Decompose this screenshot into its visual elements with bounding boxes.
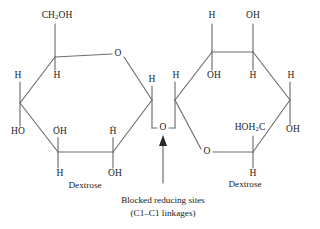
left-label-ring-oxygen: O [114,49,122,59]
left-ring-substituent-bonds [20,24,152,168]
right-bond-c2-c1 [253,52,290,100]
left-ring-name-dextrose: Dextrose [68,180,101,190]
caption-line-2: (C1–C1 linkages) [130,209,195,218]
right-label-h-c2: H [249,71,257,81]
left-label-ch2oh: CH2OH [41,11,73,21]
arrow-head [159,135,167,146]
right-ring-skeleton [175,52,290,152]
left-label-oh-c3: OH [52,127,67,137]
left-bond-c5-o [55,54,112,57]
right-ring-name-dextrose: Dextrose [228,179,261,189]
left-label-h-c4: H [14,71,22,81]
right-label-oh-c3: OH [206,71,221,81]
right-ring-substituent-bonds [175,24,290,168]
right-label-hoh2c: HOH2C [234,123,266,133]
caption-pointer-arrow [159,135,167,183]
chemical-structure-diagram: CH2OH O H H HO OH H H OH H O H OH OH H H… [0,0,320,229]
left-label-h-c1: H [148,75,156,85]
left-ring-skeleton [20,54,152,152]
left-bond-c1-c2 [113,100,152,152]
left-label-ho-c4: HO [10,127,25,137]
right-label-ring-oxygen: O [203,147,211,157]
left-label-h-c2: H [109,127,117,137]
right-label-oh-c1: OH [285,125,300,135]
left-label-h-c5: H [53,71,61,81]
glycosidic-oxygen-label: O [159,123,167,133]
left-label-oh-c2: OH [107,169,122,179]
right-label-oh-c2-top: OH [245,11,260,21]
right-label-h-c1: H [287,71,295,81]
left-bond-c4-c5 [20,57,55,103]
right-label-h-c5: H [249,169,257,179]
right-label-h-c4: H [172,71,180,81]
right-label-h-c3-top: H [208,11,216,21]
left-label-h-c3: H [56,169,64,179]
right-bond-o-c4 [175,100,201,149]
caption-line-1: Blocked reducing sites [121,196,205,205]
